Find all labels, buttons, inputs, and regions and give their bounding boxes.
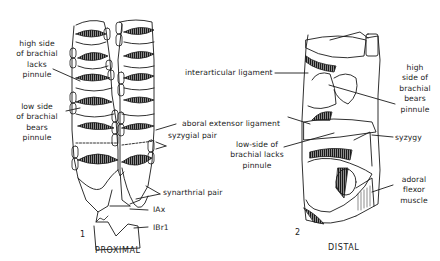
figure-number-2: 2: [295, 228, 300, 237]
label-synarthrial-pair: synarthrial pair: [163, 188, 223, 198]
label-line: high side: [8, 39, 66, 49]
label-interarticular-ligament: interarticular ligament: [185, 68, 273, 78]
label-line: of brachial: [8, 49, 66, 59]
caption-distal: DISTAL: [328, 243, 359, 252]
label-line: pinnule: [392, 105, 438, 115]
label-line: low side: [8, 102, 66, 112]
label-line: low-side of: [222, 140, 292, 150]
label-iax: IAx: [153, 205, 165, 215]
caption-proximal: PROXIMAL: [95, 246, 141, 255]
distal-arm-drawing: [275, 32, 395, 224]
label-line: side of: [392, 73, 438, 83]
label-line: high: [392, 63, 438, 73]
label-ibr1: IBr1: [153, 223, 169, 233]
label-adoral-flexor-muscle: adoral flexor muscle: [394, 175, 434, 206]
label-line: bears: [392, 94, 438, 104]
label-line: flexor: [394, 185, 434, 195]
label-low-side-bears-pinnule: low side of brachial bears pinnule: [8, 102, 66, 144]
label-high-side-lacks-pinnule: high side of brachial lacks pinnule: [8, 39, 66, 81]
illustration: [0, 0, 440, 261]
label-line: adoral: [394, 175, 434, 185]
crinoid-arm-diagram: high side of brachial lacks pinnule low …: [0, 0, 440, 261]
label-line: bears: [8, 123, 66, 133]
label-syzygial-pair: syzygial pair: [168, 131, 217, 141]
label-syzygy: syzygy: [395, 133, 422, 143]
label-aboral-extensor-ligament: aboral extensor ligament: [182, 119, 280, 129]
label-line: pinnule: [222, 161, 292, 171]
label-high-side-bears-pinnule: high side of brachial bears pinnule: [392, 63, 438, 115]
proximal-arm-drawing: [53, 20, 176, 250]
label-low-side-lacks-pinnule: low-side of brachial lacks pinnule: [222, 140, 292, 171]
label-line: pinnule: [8, 133, 66, 143]
label-line: brachial: [392, 84, 438, 94]
label-line: of brachial: [8, 112, 66, 122]
label-line: muscle: [394, 196, 434, 206]
figure-number-1: 1: [80, 230, 85, 239]
label-line: brachial lacks: [222, 150, 292, 160]
label-line: pinnule: [8, 70, 66, 80]
label-line: lacks: [8, 60, 66, 70]
